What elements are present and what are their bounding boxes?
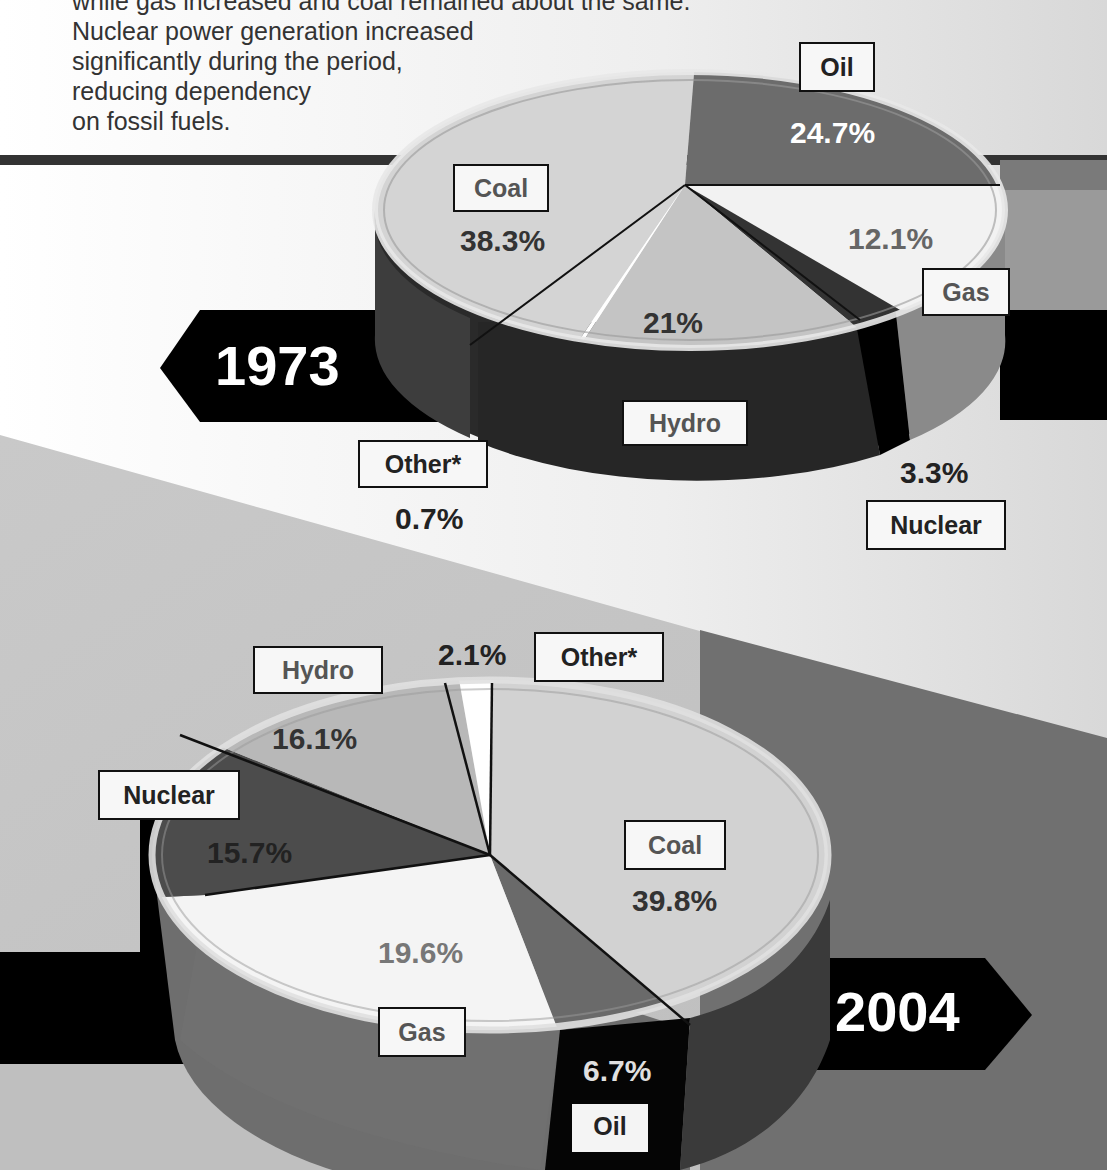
label-1973-gas: Gas	[922, 268, 1010, 316]
label-1973-coal: Coal	[453, 164, 549, 212]
intro-text: while gas increased and coal remained ab…	[72, 0, 690, 136]
pct-2004-gas: 19.6%	[378, 936, 463, 970]
pct-2004-other: 2.1%	[438, 638, 506, 672]
label-2004-nuclear: Nuclear	[98, 770, 240, 820]
pct-2004-hydro: 16.1%	[272, 722, 357, 756]
label-1973-hydro: Hydro	[622, 400, 748, 446]
pct-1973-nuclear: 3.3%	[900, 456, 968, 490]
pct-2004-oil: 6.7%	[583, 1054, 651, 1088]
label-2004-gas: Gas	[378, 1007, 466, 1057]
intro-line-1: while gas increased and coal remained ab…	[72, 0, 690, 16]
intro-line-3: significantly during the period,	[72, 46, 690, 76]
label-2004-coal: Coal	[624, 820, 726, 870]
pct-1973-gas: 12.1%	[848, 222, 933, 256]
year-1973: 1973	[215, 336, 340, 396]
label-2004-hydro: Hydro	[253, 646, 383, 694]
label-2004-oil: Oil	[572, 1104, 648, 1152]
intro-line-5: on fossil fuels.	[72, 106, 690, 136]
year-2004: 2004	[835, 982, 960, 1042]
intro-line-4: reducing dependency	[72, 76, 690, 106]
pct-2004-nuclear: 15.7%	[207, 836, 292, 870]
intro-line-2: Nuclear power generation increased	[72, 16, 690, 46]
label-2004-other: Other*	[534, 632, 664, 682]
label-1973-other: Other*	[358, 440, 488, 488]
pct-1973-other: 0.7%	[395, 502, 463, 536]
label-1973-oil: Oil	[799, 42, 875, 92]
pct-1973-coal: 38.3%	[460, 224, 545, 258]
infographic: while gas increased and coal remained ab…	[0, 0, 1107, 1170]
pct-1973-hydro: 21%	[643, 306, 703, 340]
label-1973-nuclear: Nuclear	[866, 500, 1006, 550]
pct-1973-oil: 24.7%	[790, 116, 875, 150]
pct-2004-coal: 39.8%	[632, 884, 717, 918]
